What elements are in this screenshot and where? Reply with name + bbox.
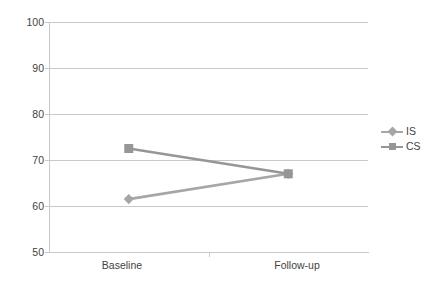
y-axis-label-90: 90 — [4, 63, 44, 74]
y-tick-100 — [45, 22, 49, 23]
legend-label-cs: CS — [406, 141, 421, 152]
y-tick-90 — [45, 68, 49, 69]
legend: IS CS — [381, 124, 437, 154]
legend-item-is[interactable]: IS — [381, 124, 437, 139]
y-axis-label-100: 100 — [4, 17, 44, 28]
x-tick-midpoint — [209, 252, 210, 257]
gridline-70 — [49, 160, 368, 161]
y-tick-80 — [45, 114, 49, 115]
gridline-80 — [49, 114, 368, 115]
legend-marker-cs-icon — [381, 141, 403, 152]
gridline-100 — [49, 22, 368, 23]
y-tick-60 — [45, 206, 49, 207]
y-axis-line — [49, 22, 50, 253]
y-tick-50 — [45, 252, 49, 253]
x-axis-label-baseline: Baseline — [102, 259, 142, 271]
plot-area — [49, 22, 368, 252]
y-axis-label-50: 50 — [4, 247, 44, 258]
y-axis-label-70: 70 — [4, 155, 44, 166]
gridline-90 — [49, 68, 368, 69]
y-tick-70 — [45, 160, 49, 161]
legend-marker-is-icon — [381, 126, 403, 137]
line-chart: 100 90 80 70 60 50 Baseline Follow-up IS… — [0, 0, 440, 283]
legend-item-cs[interactable]: CS — [381, 139, 437, 154]
gridline-60 — [49, 206, 368, 207]
legend-label-is: IS — [406, 126, 416, 137]
y-axis-label-80: 80 — [4, 109, 44, 120]
y-axis-labels: 100 90 80 70 60 50 — [0, 0, 44, 283]
x-axis-label-followup: Follow-up — [274, 259, 320, 271]
y-axis-label-60: 60 — [4, 201, 44, 212]
